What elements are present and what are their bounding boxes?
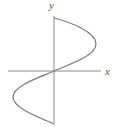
graph: y x [0, 0, 113, 127]
y-axis-label: y [48, 0, 54, 11]
x-axis-label: x [104, 65, 110, 77]
